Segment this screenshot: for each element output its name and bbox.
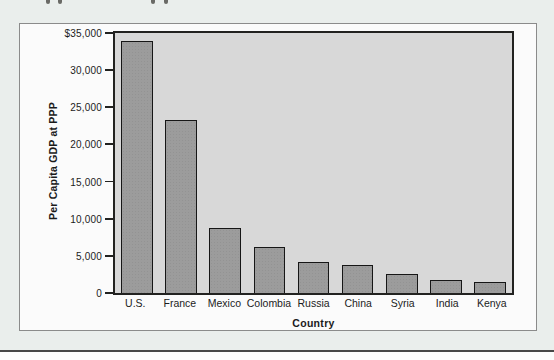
bar-slot-mexico <box>203 33 247 293</box>
bar-slot-france <box>159 33 203 293</box>
bar <box>430 280 462 293</box>
y-tick-mark <box>105 218 113 220</box>
x-tick-label: China <box>336 297 381 310</box>
bar <box>121 41 153 293</box>
bar-slot-syria <box>380 33 424 293</box>
y-tick-mark <box>105 143 113 145</box>
x-tick-label: Colombia <box>247 297 292 310</box>
y-tick-mark <box>105 255 113 257</box>
y-tick-mark <box>105 106 113 108</box>
clipped-caption-fragment <box>164 0 168 4</box>
y-tick-label: 30,000 <box>70 65 102 76</box>
bar-slot-china <box>336 33 380 293</box>
y-tick-label: 0 <box>96 288 102 299</box>
y-tick-label: 25,000 <box>70 102 102 113</box>
bar <box>342 265 374 293</box>
x-tick-label: Mexico <box>202 297 247 310</box>
bar <box>298 262 330 293</box>
x-tick-label: Russia <box>291 297 336 310</box>
x-tick-label: Syria <box>380 297 425 310</box>
y-tick-label: 15,000 <box>70 176 102 187</box>
y-axis-title: Per Capita GDP at PPP <box>47 102 59 220</box>
bar-slot-us <box>115 33 159 293</box>
y-tick-mark <box>105 32 113 34</box>
bar <box>474 282 506 293</box>
clipped-caption-fragment <box>58 0 62 4</box>
x-axis-title-row: Country <box>113 313 514 326</box>
clipped-caption-fragment <box>46 0 50 4</box>
bar <box>254 247 286 293</box>
bar <box>209 228 241 293</box>
y-tick-label: $35,000 <box>64 28 102 39</box>
chart-frame: Per Capita GDP at PPP $35,00030,00025,00… <box>19 23 537 331</box>
bar-slot-india <box>424 33 468 293</box>
x-tick-label: France <box>158 297 203 310</box>
bar-slot-colombia <box>247 33 291 293</box>
x-tick-label: U.S. <box>113 297 158 310</box>
clipped-caption-fragment <box>151 0 155 4</box>
x-tick-label: India <box>425 297 470 310</box>
x-axis-labels: U.S.FranceMexicoColombiaRussiaChinaSyria… <box>113 297 514 310</box>
bar-series <box>115 33 512 293</box>
scanned-page: { "page": { "background_color": "#eaeeec… <box>0 0 554 360</box>
x-axis-title: Country <box>292 317 334 329</box>
bar-slot-russia <box>291 33 335 293</box>
bar <box>386 274 418 293</box>
y-tick-mark <box>105 181 113 183</box>
page-divider-rule <box>0 350 554 352</box>
bar-slot-kenya <box>468 33 512 293</box>
x-tick-label: Kenya <box>470 297 515 310</box>
y-tick-label: 10,000 <box>70 213 102 224</box>
y-tick-mark <box>105 69 113 71</box>
plot-area: $35,00030,00025,00020,00015,00010,0005,0… <box>113 31 514 295</box>
y-tick-mark <box>105 292 113 294</box>
y-tick-label: 5,000 <box>76 250 102 261</box>
bar <box>165 120 197 293</box>
y-tick-label: 20,000 <box>70 139 102 150</box>
